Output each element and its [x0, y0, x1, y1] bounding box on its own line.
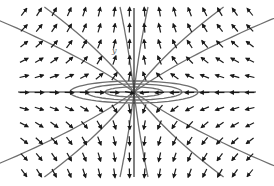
y-axis-label: y	[112, 46, 117, 55]
vector-field-plot	[0, 0, 274, 186]
phase-portrait: y	[0, 0, 274, 186]
